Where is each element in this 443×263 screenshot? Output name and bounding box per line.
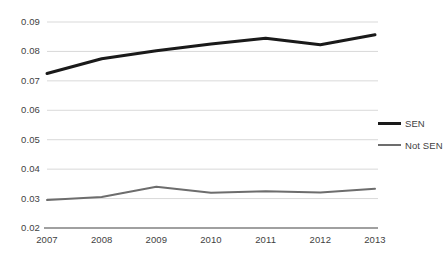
y-axis-tick-label: 0.08: [6, 45, 40, 56]
chart-legend: SEN Not SEN: [378, 112, 442, 156]
gridlines: [47, 22, 378, 199]
y-axis-tick-label: 0.02: [6, 222, 40, 233]
x-axis-tick-label: 2013: [355, 234, 395, 245]
y-axis-tick-label: 0.07: [6, 75, 40, 86]
series-line-not-sen: [47, 187, 375, 200]
legend-item-sen[interactable]: SEN: [378, 112, 442, 134]
x-axis-tick-label: 2007: [27, 234, 67, 245]
y-axis-tick-label: 0.05: [6, 134, 40, 145]
series-line-sen: [47, 35, 375, 74]
legend-item-not-sen[interactable]: Not SEN: [378, 134, 442, 156]
y-axis-tick-label: 0.04: [6, 163, 40, 174]
x-axis-tick-label: 2010: [191, 234, 231, 245]
x-axis-tick-label: 2008: [82, 234, 122, 245]
legend-swatch-sen-icon: [378, 122, 401, 125]
y-axis-tick-label: 0.03: [6, 193, 40, 204]
legend-label-not-sen: Not SEN: [405, 140, 443, 151]
y-axis-tick-label: 0.09: [6, 16, 40, 27]
x-axis-tick-label: 2011: [246, 234, 286, 245]
legend-swatch-not-sen-icon: [378, 144, 401, 146]
legend-label-sen: SEN: [405, 118, 425, 129]
x-axis-tick-label: 2009: [136, 234, 176, 245]
x-axis-tick-label: 2012: [300, 234, 340, 245]
series-lines: [47, 35, 375, 200]
y-axis-tick-label: 0.06: [6, 104, 40, 115]
